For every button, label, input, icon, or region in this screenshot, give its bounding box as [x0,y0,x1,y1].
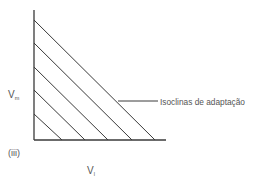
isoclines-annotation: Isoclinas de adaptação [160,96,245,107]
isoclines-group [34,20,155,140]
panel-label: (iii) [8,148,20,158]
x-axis-label-sub: l [94,171,95,177]
isocline-line [34,90,85,140]
isocline-line [34,67,108,140]
isocline-diagram: Isoclinas de adaptação Vm Vl (iii) [0,0,259,184]
isocline-line [34,20,155,140]
y-axis-label: Vm [8,89,20,101]
isocline-line [34,43,132,140]
y-axis-label-sub: m [15,95,20,101]
x-axis-label: Vl [87,165,95,177]
isocline-line [34,114,62,140]
